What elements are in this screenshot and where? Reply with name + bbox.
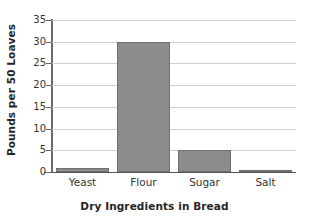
y-axis-tick-label: 5 <box>2 145 46 155</box>
bar-flour <box>117 42 170 172</box>
y-axis-tick-mark <box>46 63 51 64</box>
gridline <box>52 42 296 43</box>
category-label-yeast: Yeast <box>52 175 113 189</box>
y-axis-tick-mark <box>46 85 51 86</box>
y-axis-tick-mark <box>46 20 51 21</box>
y-axis-tick-mark <box>46 129 51 130</box>
y-axis-tick-label: 25 <box>2 58 46 68</box>
y-axis-tick-mark <box>46 172 51 173</box>
category-label-salt: Salt <box>235 175 296 189</box>
x-axis-category-labels: YeastFlourSugarSalt <box>52 175 296 191</box>
category-label-flour: Flour <box>113 175 174 189</box>
gridline <box>52 63 296 64</box>
plot-area <box>52 20 296 172</box>
y-axis-tick-label: 0 <box>2 167 46 177</box>
gridline <box>52 150 296 151</box>
y-axis-tick-labels: 05101520253035 <box>0 0 46 224</box>
gridline <box>52 107 296 108</box>
y-axis-tick-label: 30 <box>2 37 46 47</box>
bar-sugar <box>178 150 231 172</box>
y-axis-tick-label: 35 <box>2 15 46 25</box>
gridline <box>52 129 296 130</box>
x-axis-line <box>44 172 296 174</box>
y-axis-tick-label: 20 <box>2 80 46 90</box>
bar-chart-figure: Pounds per 50 Loaves 05101520253035 Yeas… <box>0 0 309 224</box>
y-axis-tick-label: 15 <box>2 102 46 112</box>
y-axis-tick-mark <box>46 42 51 43</box>
y-axis-tick-mark <box>46 150 51 151</box>
y-axis-tick-mark <box>46 107 51 108</box>
category-label-sugar: Sugar <box>174 175 235 189</box>
chart-title: Dry Ingredients in Bread <box>0 200 309 212</box>
y-axis-tick-label: 10 <box>2 124 46 134</box>
gridline <box>52 85 296 86</box>
gridline <box>52 20 296 21</box>
